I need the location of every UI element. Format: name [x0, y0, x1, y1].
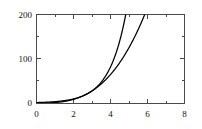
y-axis-ticks [37, 15, 42, 104]
x-tick-label-6: 6 [145, 109, 150, 119]
y-tick-label-100: 100 [19, 54, 33, 64]
chart-figure: 200 100 0 0 2 4 6 8 [0, 0, 202, 129]
line-chart: 200 100 0 0 2 4 6 8 [0, 0, 202, 129]
y-tick-label-0: 0 [28, 98, 33, 108]
x-tick-label-8: 8 [182, 109, 187, 119]
x-axis-top-ticks [37, 15, 185, 20]
curve-cubic [36, 7, 148, 103]
x-tick-label-0: 0 [34, 109, 39, 119]
x-tick-label-2: 2 [71, 109, 76, 119]
y-axis-right-ticks [180, 15, 185, 104]
x-tick-labels: 0 2 4 6 8 [34, 109, 187, 119]
plot-frame [37, 15, 185, 104]
y-tick-label-200: 200 [19, 10, 33, 20]
curve-exponential [36, 7, 127, 103]
x-tick-label-4: 4 [108, 109, 113, 119]
y-tick-labels: 200 100 0 [19, 10, 33, 109]
data-curves [36, 7, 148, 103]
